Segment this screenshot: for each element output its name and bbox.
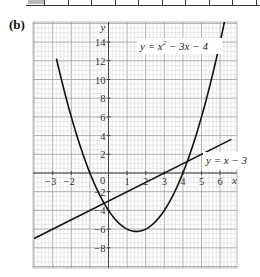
line-equation-label: y = x − 3: [205, 154, 248, 166]
x-tick-label: −2: [64, 176, 75, 187]
x-tick-label: 0: [100, 175, 105, 186]
y-tick-label: −4: [94, 205, 106, 216]
y-tick-label: 2: [100, 149, 105, 160]
y-tick-label: −2: [94, 187, 105, 198]
graph: −3−201234561412108642−2−4−6−8xy y = x2 −…: [0, 0, 260, 277]
y-tick-label: 12: [95, 56, 106, 67]
y-axis-label: y: [100, 21, 106, 33]
y-tick-label: 14: [95, 37, 106, 48]
y-tick-label: −6: [94, 224, 105, 235]
x-tick-label: 4: [180, 176, 186, 187]
x-tick-label: 3: [162, 176, 167, 187]
y-tick-label: 4: [100, 131, 106, 142]
parabola-equation-label: y = x2 − 3x − 4: [139, 39, 208, 52]
y-tick-label: 10: [95, 75, 106, 86]
x-tick-label: 2: [143, 176, 148, 187]
x-axis-label: x: [231, 174, 237, 186]
x-tick-label: 6: [217, 176, 222, 187]
equation-labels: y = x2 − 3x − 4y = x − 3: [137, 38, 260, 169]
x-tick-label: −3: [45, 176, 56, 187]
x-tick-label: 5: [199, 176, 204, 187]
x-tick-label: 1: [124, 176, 129, 187]
y-tick-label: 8: [100, 93, 105, 104]
y-tick-label: 6: [100, 112, 105, 123]
y-tick-label: −8: [94, 243, 105, 254]
